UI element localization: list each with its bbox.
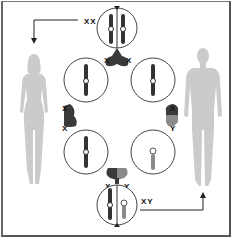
- label-xy: XY: [141, 197, 154, 206]
- cell-top-xx: [97, 6, 137, 48]
- cell-lower-right: [131, 130, 175, 174]
- label-xx: XX: [84, 17, 97, 26]
- cell-upper-right: [131, 58, 175, 102]
- label-top-x-left: X: [104, 56, 110, 65]
- label-right-x: X: [170, 104, 176, 113]
- male-figure: [184, 48, 222, 186]
- label-right-y: Y: [170, 124, 176, 133]
- cell-bottom-xy: [97, 185, 137, 227]
- arrow-head-icon: [200, 192, 206, 198]
- label-left-x-top: X: [62, 104, 68, 113]
- sex-determination-diagram: XX XY X X X X X Y: [0, 0, 233, 239]
- label-left-x-bottom: X: [62, 124, 68, 133]
- female-figure: [20, 54, 48, 184]
- cell-upper-left: [64, 58, 108, 102]
- label-top-x-right: X: [126, 56, 132, 65]
- arrow-head-icon: [31, 38, 37, 44]
- cell-lower-left: [64, 130, 108, 174]
- arrow-to-female: [34, 20, 78, 40]
